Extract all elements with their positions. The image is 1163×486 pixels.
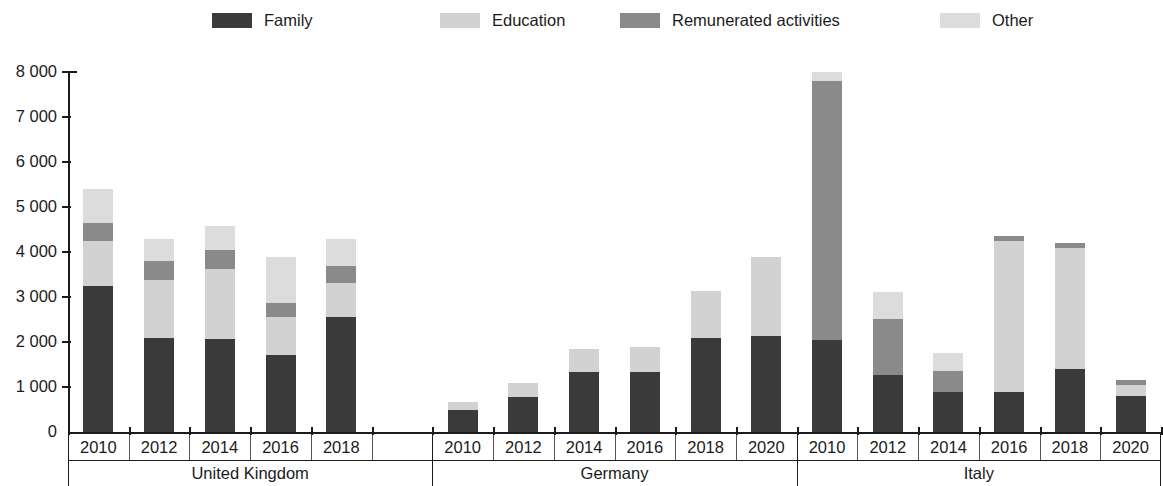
bar-united-kingdom-2012[interactable] (144, 239, 174, 433)
x-axis-cell-separator (554, 434, 555, 460)
bar-segment-education (1055, 248, 1085, 369)
bar-segment-education (508, 383, 538, 397)
x-axis-year-label: 2012 (129, 434, 190, 460)
x-axis-cell-separator (615, 434, 616, 460)
x-axis-group-label: United Kingdom (68, 460, 432, 486)
bar-segment-other (326, 239, 356, 266)
x-axis-tick-mark (979, 427, 981, 435)
x-axis-cell-separator (189, 434, 190, 460)
bar-segment-education (448, 402, 478, 410)
bar-segment-family (266, 355, 296, 432)
y-axis-tick-labels: 8 0007 0006 0005 0004 0003 0002 0001 000… (0, 44, 57, 486)
bar-segment-remunerated-activities (266, 303, 296, 317)
bar-united-kingdom-2014[interactable] (205, 226, 235, 432)
bar-germany-2010[interactable] (448, 402, 478, 432)
bar-segment-education (569, 349, 599, 372)
bar-italy-2020[interactable] (1116, 380, 1146, 432)
x-axis-cell-separator (857, 434, 858, 460)
bar-segment-family (448, 410, 478, 433)
bar-segment-education (266, 317, 296, 355)
bar-segment-family (933, 392, 963, 433)
bar-segment-family (326, 317, 356, 432)
bar-italy-2018[interactable] (1055, 243, 1085, 432)
bar-germany-2018[interactable] (691, 291, 721, 432)
bar-segment-family (994, 392, 1024, 433)
y-axis-tick-label: 1 000 (5, 378, 57, 394)
x-axis-tick-mark (615, 427, 617, 435)
bar-segment-remunerated-activities (144, 261, 174, 280)
bar-segment-education (326, 283, 356, 317)
x-axis-year-label: 2020 (1100, 434, 1161, 460)
y-axis-tick-label: 5 000 (5, 198, 57, 214)
x-axis-tick-mark (250, 427, 252, 435)
x-axis-group-label: Germany (432, 460, 796, 486)
bar-segment-other (205, 226, 235, 250)
legend-item-label: Education (492, 12, 565, 28)
y-axis-tick-label: 0 (5, 423, 57, 439)
bar-segment-family (569, 372, 599, 432)
bars-layer (68, 72, 1161, 432)
bar-italy-2012[interactable] (873, 292, 903, 432)
x-axis-year-label: 2010 (432, 434, 493, 460)
x-axis-tick-mark (1040, 427, 1042, 435)
x-axis-cell-separator (979, 434, 980, 460)
bar-segment-other (812, 72, 842, 81)
x-axis-year-label: 2018 (311, 434, 372, 460)
legend-item-education[interactable]: Education (440, 12, 565, 28)
bar-segment-other (933, 353, 963, 371)
x-axis-tick-mark (918, 427, 920, 435)
y-axis-tick-label: 7 000 (5, 108, 57, 124)
bar-segment-family (1055, 369, 1085, 432)
x-axis-year-label: 2014 (918, 434, 979, 460)
bar-segment-remunerated-activities (205, 250, 235, 269)
bar-segment-family (508, 397, 538, 432)
x-axis-tick-mark (493, 427, 495, 435)
bar-segment-family (205, 339, 235, 432)
x-axis-cell-separator (372, 434, 373, 460)
bar-segment-education (994, 241, 1024, 392)
legend-item-other[interactable]: Other (940, 12, 1033, 28)
x-axis-tick-mark (311, 427, 313, 435)
bar-segment-education (83, 241, 113, 286)
bar-italy-2010[interactable] (812, 72, 842, 432)
x-axis-tick-mark (736, 427, 738, 435)
x-axis-tick-mark (189, 427, 191, 435)
x-axis-tick-mark (675, 427, 677, 435)
bar-germany-2014[interactable] (569, 349, 599, 432)
category-axis: 20102012201420162018United Kingdom201020… (68, 434, 1161, 486)
x-axis-year-label: 2018 (1040, 434, 1101, 460)
bar-italy-2016[interactable] (994, 236, 1024, 432)
bar-segment-other (83, 189, 113, 223)
x-axis-cell-separator (493, 434, 494, 460)
bar-germany-2020[interactable] (751, 257, 781, 433)
y-axis-tick-mark (62, 71, 71, 73)
bar-united-kingdom-2016[interactable] (266, 257, 296, 433)
bar-germany-2016[interactable] (630, 347, 660, 432)
bar-segment-education (630, 347, 660, 372)
x-axis-cell-separator (1040, 434, 1041, 460)
bar-segment-family (83, 286, 113, 432)
bar-segment-education (751, 257, 781, 337)
x-axis-cell-separator (1100, 434, 1101, 460)
bar-germany-2012[interactable] (508, 383, 538, 433)
x-axis-group-label: Italy (797, 460, 1161, 486)
bar-united-kingdom-2010[interactable] (83, 189, 113, 432)
legend-swatch-icon (940, 13, 980, 28)
legend-item-label: Family (264, 12, 313, 28)
x-axis-cell-separator (675, 434, 676, 460)
bar-segment-remunerated-activities (933, 371, 963, 391)
bar-italy-2014[interactable] (933, 353, 963, 432)
y-axis-tick-mark (62, 386, 71, 388)
x-axis-year-label: 2014 (189, 434, 250, 460)
bar-united-kingdom-2018[interactable] (326, 239, 356, 433)
bar-segment-education (144, 280, 174, 339)
legend-item-remunerated-activities[interactable]: Remunerated activities (620, 12, 840, 28)
x-axis-year-label (372, 434, 433, 460)
x-axis-year-label: 2010 (68, 434, 129, 460)
y-axis-tick-mark (62, 161, 71, 163)
bar-segment-other (144, 239, 174, 261)
x-axis-year-label: 2010 (797, 434, 858, 460)
legend-item-family[interactable]: Family (212, 12, 313, 28)
legend-item-label: Remunerated activities (672, 12, 840, 28)
chart-plot-area: 8 0007 0006 0005 0004 0003 0002 0001 000… (0, 44, 1163, 486)
